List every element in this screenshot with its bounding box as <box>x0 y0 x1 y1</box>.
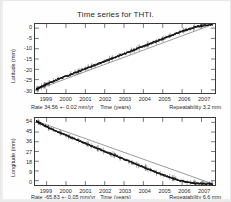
xtick-label: 2000 <box>60 96 72 102</box>
ytick-label: -10 <box>14 45 32 51</box>
xtick-label: 1999 <box>40 188 52 194</box>
longitude-repeatability-text: Repeatability 6.6 mm <box>169 194 221 200</box>
ytick-label: 0 <box>14 179 32 185</box>
ytick-label: -20 <box>14 67 32 73</box>
xtick-label: 2007 <box>198 188 210 194</box>
xtick-label: 2005 <box>158 188 170 194</box>
latitude-repeatability-text: Repeatability 3.2 mm <box>169 104 221 110</box>
latitude-panel: Latitude (mm) 0-5-10-15-20-25-30 1999200… <box>1 21 230 113</box>
xtick-label: 2004 <box>139 96 151 102</box>
ytick-label: -25 <box>14 77 32 83</box>
xtick-label: 2003 <box>119 96 131 102</box>
xtick-label: 2001 <box>79 96 91 102</box>
ytick-label: -15 <box>14 56 32 62</box>
xtick-label: 2002 <box>99 96 111 102</box>
ytick-label: 27 <box>14 149 32 155</box>
latitude-rate-text: Rate 34.56 +- 0.02 mm/yr <box>31 104 94 110</box>
ytick-label: -5 <box>14 35 32 41</box>
xtick-label: 2004 <box>139 188 151 194</box>
longitude-xaxis-label: Time (years) <box>100 194 131 200</box>
latitude-xaxis-label: Time (years) <box>100 104 131 110</box>
xtick-label: 2005 <box>158 96 170 102</box>
ytick-label: -30 <box>14 88 32 94</box>
xtick-label: 2007 <box>198 96 210 102</box>
ytick-label: 45 <box>14 128 32 134</box>
xtick-label: 2006 <box>178 188 190 194</box>
xtick-label: 2002 <box>99 188 111 194</box>
latitude-footer: Rate 34.56 +- 0.02 mm/yr Time (years) Re… <box>1 104 230 112</box>
longitude-footer: Rate -65.83 +- 0.05 mm/yr Time (years) R… <box>1 194 230 202</box>
longitude-panel: Longitude (mm) 544536271890 199920002001… <box>1 113 230 202</box>
ytick-label: 54 <box>14 118 32 124</box>
longitude-plot-canvas <box>35 118 215 185</box>
xtick-label: 2006 <box>178 96 190 102</box>
page-title: Time series for THTI. <box>1 10 230 19</box>
latitude-axes <box>34 23 216 94</box>
ytick-label: 0 <box>14 24 32 30</box>
xtick-label: 2000 <box>60 188 72 194</box>
longitude-rate-text: Rate -65.83 +- 0.05 mm/yr <box>31 194 95 200</box>
gps-time-series-figure: Time series for THTI. Latitude (mm) 0-5-… <box>0 0 231 202</box>
xtick-label: 2003 <box>119 188 131 194</box>
ytick-label: 18 <box>14 159 32 165</box>
ytick-label: 9 <box>14 169 32 175</box>
xtick-label: 1999 <box>40 96 52 102</box>
xtick-label: 2001 <box>79 188 91 194</box>
longitude-axes <box>34 117 216 186</box>
latitude-plot-canvas <box>35 24 215 93</box>
ytick-label: 36 <box>14 138 32 144</box>
